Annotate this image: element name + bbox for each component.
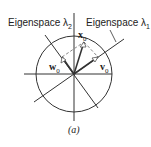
vector-x0-label: x0 [78, 30, 87, 44]
vector-w0-label: w0 [49, 62, 60, 76]
vector-v0-label: v0 [100, 62, 109, 76]
eigenspace-lambda2-label: Eigenspace λ2 [8, 18, 72, 32]
projection-dashed-v [84, 42, 98, 57]
figure-caption: (a) [68, 124, 80, 135]
eigenspace-lambda1-label: Eigenspace λ1 [86, 18, 150, 32]
